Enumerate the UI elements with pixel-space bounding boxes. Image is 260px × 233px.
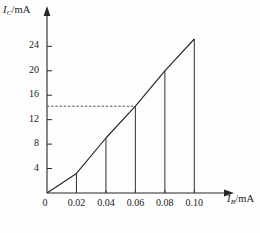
series-transfer-characteristic xyxy=(47,39,194,193)
y-tick-label-8: 8 xyxy=(17,137,39,148)
chart-figure: IC/mA IB/mA 481216202400.020.040.060.080… xyxy=(0,0,260,233)
y-tick-label-12: 12 xyxy=(17,113,39,124)
x-tick-label-0.02: 0.02 xyxy=(61,197,91,208)
x-axis-unit: /mA xyxy=(235,193,254,204)
y-axis-unit: /mA xyxy=(12,4,31,15)
x-tick-label-0.10: 0.10 xyxy=(179,197,209,208)
y-axis-title: IC/mA xyxy=(3,4,31,17)
y-tick-label-4: 4 xyxy=(17,162,39,173)
y-axis-arrow xyxy=(44,6,51,16)
y-tick-label-16: 16 xyxy=(17,88,39,99)
x-axis-title: IB/mA xyxy=(227,193,254,206)
y-tick-label-20: 20 xyxy=(17,64,39,75)
x-tick-label-0.06: 0.06 xyxy=(120,197,150,208)
x-tick-label-0.08: 0.08 xyxy=(150,197,180,208)
y-tick-label-24: 24 xyxy=(17,39,39,50)
x-tick-label-0.04: 0.04 xyxy=(91,197,121,208)
origin-label: 0 xyxy=(38,197,52,208)
